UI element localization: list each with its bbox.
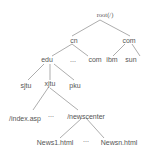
node-com-top: com xyxy=(122,37,135,45)
node-cn: cn xyxy=(70,37,77,45)
node-pku: pku xyxy=(69,82,80,90)
node-news1: News1.html xyxy=(37,139,74,147)
node-newsn: Newsn.html xyxy=(101,139,138,147)
node-edu: edu xyxy=(41,56,53,64)
node-ellipsis: ... xyxy=(83,136,89,144)
node-root: root(/) xyxy=(97,11,114,19)
node-xjtu: xjtu xyxy=(45,80,56,88)
node-sjtu: sjtu xyxy=(21,82,32,90)
node-sun: sun xyxy=(125,56,136,64)
node-ellipsis: ... xyxy=(70,56,76,64)
tree-edges xyxy=(0,0,150,156)
node-ellipsis: ... xyxy=(48,111,54,119)
node-ibm: ibm xyxy=(106,56,117,64)
node-newscenter: /newscenter xyxy=(67,113,105,121)
node-index-asp: /index.asp xyxy=(9,115,41,123)
node-com-cn: com xyxy=(88,56,101,64)
